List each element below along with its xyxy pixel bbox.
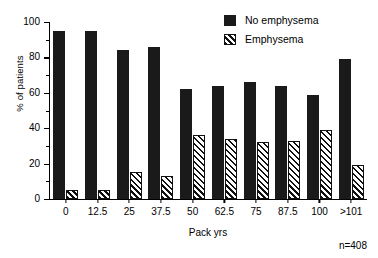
bar-groups [50, 22, 367, 199]
x-tick: 100 [304, 199, 336, 217]
legend-label: Emphysema [245, 33, 303, 45]
x-tick-mark [351, 199, 352, 203]
bar-no-emphysema [339, 59, 351, 199]
x-tick-label: 100 [304, 206, 336, 217]
y-tick-label: 20 [29, 158, 40, 169]
y-tick-label: 80 [29, 51, 40, 62]
plot-area: 020406080100 [49, 22, 367, 199]
x-tick-mark [192, 199, 193, 203]
y-tick-minor [46, 111, 49, 112]
y-tick-minor [46, 75, 49, 76]
x-tick-label: 50 [177, 206, 209, 217]
y-tick: 20 [44, 164, 49, 165]
x-tick-mark [319, 199, 320, 203]
x-tick-label: 25 [113, 206, 145, 217]
bar-no-emphysema [307, 95, 319, 199]
y-tick-label: 40 [29, 122, 40, 133]
x-tick-mark [129, 199, 130, 203]
bar-chart: % of patients 020406080100 012.52537.550… [0, 0, 378, 258]
y-tick: 60 [44, 93, 49, 94]
x-tick-mark [65, 199, 66, 203]
legend-item-emphysema: Emphysema [224, 31, 319, 47]
x-tick-mark [287, 199, 288, 203]
sample-size-annotation: n=408 [339, 240, 367, 251]
x-tick-label: 12.5 [82, 206, 114, 217]
bar-group [145, 22, 177, 199]
x-tick-mark [160, 199, 161, 203]
y-tick-minor [46, 146, 49, 147]
bar-group [335, 22, 367, 199]
x-tick: 12.5 [82, 199, 114, 217]
x-tick: 62.5 [209, 199, 241, 217]
legend-label: No emphysema [245, 14, 319, 26]
bar-no-emphysema [275, 86, 287, 199]
x-tick-label: 62.5 [209, 206, 241, 217]
x-tick: >101 [335, 199, 367, 217]
x-tick-mark [97, 199, 98, 203]
bar-emphysema [193, 135, 205, 199]
x-axis-ticks: 012.52537.55062.57587.5100>101 [50, 199, 367, 217]
bar-group [50, 22, 82, 199]
bar-emphysema [352, 165, 364, 199]
bar-emphysema [98, 190, 110, 199]
x-tick-label: 0 [50, 206, 82, 217]
bar-emphysema [225, 139, 237, 199]
y-axis-label: % of patients [14, 29, 25, 139]
x-tick: 50 [177, 199, 209, 217]
bar-no-emphysema [244, 82, 256, 199]
legend-item-no-emphysema: No emphysema [224, 12, 319, 28]
y-tick-minor [46, 181, 49, 182]
hatched-square-icon [224, 34, 236, 45]
x-tick-label: 75 [240, 206, 272, 217]
bar-emphysema [161, 176, 173, 199]
bar-no-emphysema [180, 89, 192, 199]
y-tick: 0 [44, 199, 49, 200]
x-tick: 37.5 [145, 199, 177, 217]
x-tick: 0 [50, 199, 82, 217]
solid-square-icon [224, 15, 236, 26]
bar-emphysema [130, 172, 142, 199]
bar-emphysema [320, 130, 332, 199]
x-tick: 25 [113, 199, 145, 217]
y-tick: 100 [44, 22, 49, 23]
y-tick-label: 0 [34, 193, 40, 204]
bar-emphysema [66, 190, 78, 199]
x-tick-label: >101 [335, 206, 367, 217]
x-tick-label: 37.5 [145, 206, 177, 217]
bar-emphysema [288, 141, 300, 199]
bar-no-emphysema [53, 31, 65, 199]
x-tick-mark [255, 199, 256, 203]
chart-legend: No emphysema Emphysema [224, 12, 319, 50]
x-tick: 87.5 [272, 199, 304, 217]
bar-emphysema [257, 142, 269, 199]
y-tick-label: 60 [29, 87, 40, 98]
bar-group [113, 22, 145, 199]
y-tick: 40 [44, 128, 49, 129]
x-tick: 75 [240, 199, 272, 217]
bar-group [177, 22, 209, 199]
y-tick-minor [46, 40, 49, 41]
bar-no-emphysema [148, 47, 160, 199]
x-axis-label: Pack yrs [49, 227, 367, 238]
x-tick-label: 87.5 [272, 206, 304, 217]
y-tick: 80 [44, 57, 49, 58]
x-tick-mark [224, 199, 225, 203]
bar-no-emphysema [117, 50, 129, 199]
bar-no-emphysema [212, 86, 224, 199]
bar-no-emphysema [85, 31, 97, 199]
y-tick-label: 100 [23, 16, 40, 27]
bar-group [82, 22, 114, 199]
